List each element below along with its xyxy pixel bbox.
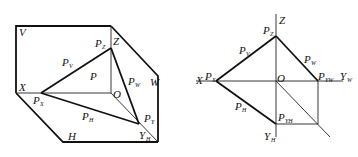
- svg-text:P: P: [303, 53, 311, 65]
- label-p: P: [89, 70, 97, 82]
- label-yw: Y W: [340, 70, 353, 83]
- label-o: O: [277, 72, 285, 84]
- svg-text:P: P: [234, 100, 242, 112]
- label-pyh: P YH: [277, 111, 293, 124]
- svg-text:Z: Z: [270, 31, 274, 37]
- svg-text:Y: Y: [151, 119, 155, 125]
- svg-text:YW: YW: [325, 77, 334, 83]
- svg-text:H: H: [145, 136, 151, 142]
- svg-text:P: P: [262, 24, 270, 36]
- label-px: P X: [32, 94, 44, 107]
- svg-text:X: X: [211, 77, 216, 83]
- label-pz: P Z: [94, 37, 106, 50]
- label-w: W: [150, 76, 160, 88]
- label-px: P X: [204, 70, 216, 83]
- label-pv: P V: [238, 44, 251, 57]
- svg-text:P: P: [94, 37, 102, 49]
- svg-text:P: P: [204, 70, 212, 82]
- right-orthographic-figure: Z O X P Z P V P W P X P YW Y W P H: [195, 14, 353, 143]
- svg-text:P: P: [32, 94, 40, 106]
- svg-text:P: P: [61, 56, 69, 68]
- label-x: X: [195, 74, 204, 86]
- svg-text:P: P: [143, 112, 151, 124]
- label-pw: P W: [303, 53, 317, 66]
- svg-text:Z: Z: [102, 44, 106, 50]
- svg-text:V: V: [69, 63, 74, 69]
- svg-text:W: W: [347, 77, 353, 83]
- trace-pv: [216, 36, 276, 81]
- label-x: X: [18, 81, 27, 93]
- diagonal-45-line: [276, 81, 330, 137]
- svg-text:H: H: [241, 107, 247, 113]
- label-pv: P V: [61, 56, 74, 69]
- label-pyw: P YW: [317, 70, 334, 83]
- label-pz: P Z: [262, 24, 274, 37]
- trace-ph: [216, 81, 276, 124]
- label-o: O: [113, 88, 121, 100]
- label-yh: Y H: [139, 129, 151, 142]
- svg-text:P: P: [238, 44, 246, 56]
- svg-text:H: H: [88, 117, 94, 123]
- svg-text:P: P: [81, 110, 89, 122]
- diagram-canvas: V W H X Z O P P Z P V P W P X P H P Y: [0, 0, 358, 157]
- svg-text:P: P: [277, 111, 285, 123]
- svg-text:P: P: [127, 75, 135, 87]
- label-py: P Y: [143, 112, 155, 125]
- svg-text:P: P: [317, 70, 325, 82]
- svg-text:W: W: [311, 60, 317, 66]
- label-z: Z: [113, 35, 120, 47]
- svg-text:H: H: [270, 137, 276, 143]
- trace-pv: [41, 48, 111, 93]
- left-axonometric-figure: V W H X Z O P P Z P V P W P X P H P Y: [16, 26, 160, 142]
- svg-text:W: W: [135, 82, 141, 88]
- label-h: H: [67, 130, 77, 142]
- label-yh: Y H: [264, 130, 276, 143]
- label-pw: P W: [127, 75, 141, 88]
- label-z: Z: [279, 14, 286, 26]
- svg-text:X: X: [39, 101, 44, 107]
- label-ph: P H: [81, 110, 94, 123]
- svg-text:YH: YH: [285, 118, 293, 124]
- label-v: V: [19, 26, 27, 38]
